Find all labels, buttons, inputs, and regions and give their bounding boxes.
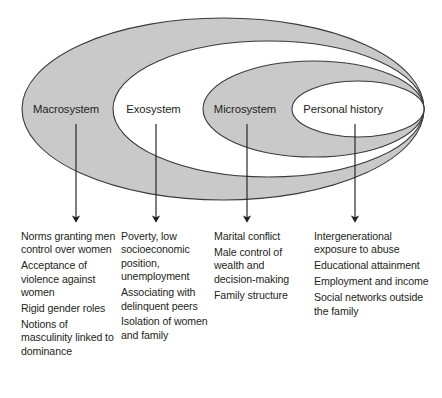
factor-item: Associating with delinquent peers [121,286,213,313]
factor-item: Norms granting men control over women [21,230,116,257]
factor-columns: Norms granting men control over women Ac… [0,230,442,398]
factor-item: Marital conflict [214,230,307,243]
factor-item: Family structure [214,289,307,302]
ring-label-exosystem: Exosystem [116,103,191,116]
factor-item: Social networks outside the family [314,291,430,318]
factor-column-microsystem: Marital conflict Male control of wealth … [214,230,307,302]
nested-ellipses-graphic [0,0,442,232]
factor-column-macrosystem: Norms granting men control over women Ac… [21,230,116,358]
factor-item: Poverty, low socioeconomic position, une… [121,230,213,284]
ring-label-personal-history: Personal history [295,103,391,116]
ring-label-microsystem: Microsystem [205,103,285,116]
factor-item: Educational attainment [314,259,430,272]
factor-item: Acceptance of violence against women [21,259,116,299]
factor-column-exosystem: Poverty, low socioeconomic position, une… [121,230,213,342]
ecological-model-diagram: Macrosystem Exosystem Microsystem Person… [0,0,442,398]
factor-item: Isolation of women and family [121,315,213,342]
factor-item: Employment and income [314,275,430,288]
ring-label-macrosystem: Macrosystem [24,103,108,116]
factor-item: Rigid gender roles [21,302,116,315]
factor-item: Notions of masculinity linked to dominan… [21,318,116,358]
factor-item: Intergenerational exposure to abuse [314,230,430,257]
factor-column-personal-history: Intergenerational exposure to abuse Educ… [314,230,430,318]
factor-item: Male control of wealth and decision-maki… [214,246,307,286]
